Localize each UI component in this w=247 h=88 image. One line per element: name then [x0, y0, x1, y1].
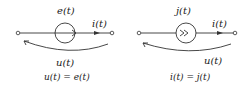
voltage-arrow	[143, 43, 231, 51]
current-label: i(t)	[212, 18, 227, 29]
current-source-circle-icon	[176, 23, 196, 43]
source-label: e(t)	[57, 5, 75, 16]
voltage-label: u(t)	[56, 57, 74, 68]
source-label: j(t)	[174, 5, 191, 16]
equation: u(t) = e(t)	[44, 72, 90, 82]
voltage-source-diagram: e(t) i(t) u(t) u(t) = e(t)	[16, 5, 114, 82]
terminal-right	[110, 31, 114, 35]
current-arrow-icon	[217, 31, 223, 35]
equation: i(t) = j(t)	[170, 72, 211, 82]
circuit-diagram: e(t) i(t) u(t) u(t) = e(t) j(t) i(t) u(t…	[0, 0, 247, 88]
terminal-left	[137, 31, 141, 35]
voltage-arrow	[24, 41, 108, 50]
current-arrow-icon	[94, 31, 100, 35]
current-source-diagram: j(t) i(t) u(t) i(t) = j(t)	[137, 5, 237, 82]
terminal-right	[233, 31, 237, 35]
voltage-label: u(t)	[204, 55, 222, 66]
terminal-left	[16, 31, 20, 35]
current-label: i(t)	[92, 18, 107, 29]
